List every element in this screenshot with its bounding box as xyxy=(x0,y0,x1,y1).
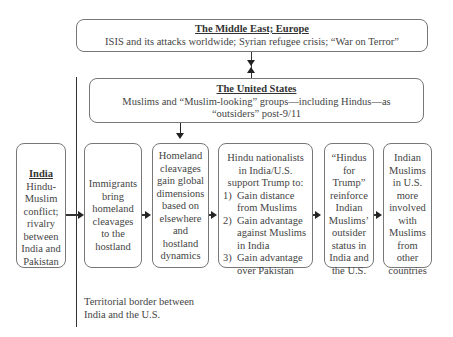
box-text: from Muslims xyxy=(237,202,297,213)
india-box: India Hindu- Muslim conflict; rivalry be… xyxy=(16,143,66,268)
box-text: hostland xyxy=(85,241,141,254)
arrow-down-icon xyxy=(247,60,255,66)
box-text: Gain distance xyxy=(237,190,294,201)
box-text: in India xyxy=(237,240,269,251)
border-note-line1: Territorial border between xyxy=(84,296,194,309)
box-text: involved xyxy=(384,202,431,215)
item-number: 2) xyxy=(223,215,237,253)
box-text: to the xyxy=(85,228,141,241)
border-note: Territorial border between India and the… xyxy=(84,296,194,321)
connector-1-2 xyxy=(66,214,78,216)
box-text: hostland xyxy=(153,238,208,251)
arrow-right-icon xyxy=(145,211,151,219)
indian-muslims-box: Indian Muslims in U.S. more involved wit… xyxy=(383,143,432,268)
box-text: between xyxy=(17,231,65,244)
hindus-for-trump-box: “Hindus for Trump” reinforce Indian Musl… xyxy=(324,143,374,268)
box-text: with xyxy=(384,215,431,228)
list-item: 3)Gain advantageover Pakistan xyxy=(223,252,312,277)
box-text: the U.S. xyxy=(325,265,373,278)
box-text: status in xyxy=(325,240,373,253)
box-text: in U.S. xyxy=(384,177,431,190)
box-text: outsider xyxy=(325,227,373,240)
item-number: 1) xyxy=(223,190,237,215)
box-text: Homeland xyxy=(153,150,208,163)
list-item: 1)Gain distancefrom Muslims xyxy=(223,190,312,215)
box-text: cleavages xyxy=(85,216,141,229)
box-text: Muslims’ xyxy=(325,215,373,228)
box-text: Hindu- xyxy=(17,181,65,194)
box-text: dimensions xyxy=(153,188,208,201)
box-text: Muslims xyxy=(384,165,431,178)
box-text: rivalry xyxy=(17,218,65,231)
box-text: gain global xyxy=(153,175,208,188)
box-text: Muslim xyxy=(17,193,65,206)
middle-east-title: The Middle East; Europe xyxy=(77,23,427,36)
box-text: in India/U.S. xyxy=(219,165,312,178)
box-text: Trump” xyxy=(325,177,373,190)
box-text: Indian xyxy=(325,202,373,215)
us-text-line1: Muslims and “Muslim-looking” groups—incl… xyxy=(90,96,423,109)
box-text: Gain advantage xyxy=(237,215,303,226)
box-text: countries xyxy=(384,265,431,278)
item-number: 3) xyxy=(223,252,237,277)
box-text: other xyxy=(384,252,431,265)
global-dimensions-box: Homeland cleavages gain global dimension… xyxy=(152,143,209,268)
box-text: dynamics xyxy=(153,250,208,263)
arrow-down-icon xyxy=(176,133,184,139)
list-item: 2)Gain advantageagainst Muslimsin India xyxy=(223,215,312,253)
box-text: over Pakistan xyxy=(237,265,294,276)
immigrants-box: Immigrants bring homeland cleavages to t… xyxy=(84,143,142,268)
box-text: from xyxy=(384,240,431,253)
box-text: cleavages xyxy=(153,163,208,176)
middle-east-text: ISIS and its attacks worldwide; Syrian r… xyxy=(77,36,427,49)
box-text: Immigrants xyxy=(85,178,141,191)
box-text: bring xyxy=(85,191,141,204)
box-text: reinforce xyxy=(325,190,373,203)
box-text: Gain advantage xyxy=(237,252,303,263)
box-text: Muslims xyxy=(384,227,431,240)
arrow-right-icon xyxy=(211,211,217,219)
box-text: and xyxy=(153,225,208,238)
box-text: India and xyxy=(17,243,65,256)
us-text-line2: “outsiders” post-9/11 xyxy=(90,108,423,121)
united-states-box: The United States Muslims and “Muslim-lo… xyxy=(89,78,424,123)
box-text: against Muslims xyxy=(237,227,306,238)
arrow-up-icon xyxy=(247,67,255,73)
box-text: India and xyxy=(325,252,373,265)
box-text: based on xyxy=(153,200,208,213)
box-text: homeland xyxy=(85,203,141,216)
box-text: elsewhere xyxy=(153,213,208,226)
reasons-list: 1)Gain distancefrom Muslims 2)Gain advan… xyxy=(219,190,312,278)
box-text: support Trump to: xyxy=(219,177,312,190)
box-text: for xyxy=(325,165,373,178)
box-text: “Hindus xyxy=(325,152,373,165)
arrow-right-icon xyxy=(376,211,382,219)
box-text: Pakistan xyxy=(17,256,65,269)
us-title: The United States xyxy=(90,83,423,96)
box-text: more xyxy=(384,190,431,203)
box-text: conflict; xyxy=(17,206,65,219)
border-note-line2: India and the U.S. xyxy=(84,309,194,322)
middle-east-box: The Middle East; Europe ISIS and its att… xyxy=(76,19,428,52)
territorial-border-line xyxy=(76,77,77,327)
box-text: Indian xyxy=(384,152,431,165)
box-text: Hindu nationalists xyxy=(219,152,312,165)
hindu-nationalists-box: Hindu nationalists in India/U.S. support… xyxy=(218,143,313,268)
india-title: India xyxy=(17,168,65,181)
arrow-right-icon xyxy=(315,211,321,219)
